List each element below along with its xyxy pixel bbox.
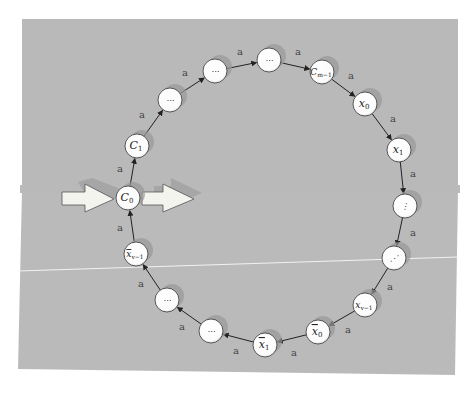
node-label: ⋯: [163, 296, 171, 305]
node-label: ⋰: [390, 254, 399, 263]
node-label: ⋯: [265, 56, 273, 65]
edge-label: a: [410, 168, 416, 179]
edge-label: a: [117, 163, 123, 174]
edge-label: a: [138, 278, 144, 289]
edge-label: a: [348, 70, 354, 81]
edge-label: a: [237, 46, 243, 57]
edge-label: a: [345, 324, 351, 335]
edge-label: a: [295, 46, 301, 57]
node-label: ⋯: [166, 96, 174, 105]
edge-label: a: [117, 222, 123, 233]
edge-label: a: [179, 321, 185, 332]
cycle-diagram: aaaaaaaaaaaaaaaa C0C1⋯⋯⋯Cm−1x0x1⋮⋰xv−1x0…: [0, 0, 475, 395]
edge-label: a: [390, 113, 396, 124]
edge-label: a: [139, 109, 145, 120]
edge-label: a: [291, 347, 297, 358]
edge-label: a: [410, 227, 416, 238]
edge-label: a: [182, 67, 188, 78]
node-label: ⋯: [207, 327, 215, 336]
node-label: ⋯: [211, 67, 219, 76]
edge-label: a: [387, 281, 393, 292]
background-panel: [22, 19, 458, 191]
node-label: ⋮: [401, 202, 409, 211]
edge-label: a: [233, 345, 239, 356]
